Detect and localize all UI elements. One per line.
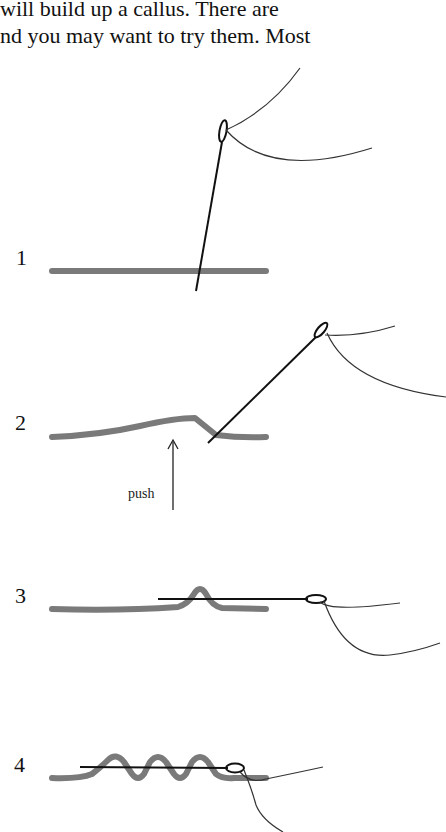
needle-icon <box>208 337 316 443</box>
sewing-diagram <box>0 0 446 832</box>
needle-eye-icon <box>226 764 244 773</box>
needle-icon <box>80 767 228 768</box>
fabric-icon <box>52 418 266 437</box>
step-3-illustration <box>52 589 440 655</box>
thread-icon <box>226 68 300 130</box>
needle-eye-icon <box>313 321 330 339</box>
thread-icon <box>327 333 446 397</box>
thread-icon <box>324 601 440 655</box>
needle-eye-icon <box>306 595 326 603</box>
thread-icon <box>320 602 400 607</box>
thread-icon <box>325 326 395 335</box>
step-2-illustration <box>52 321 446 510</box>
thread-icon <box>226 130 372 160</box>
step-1-illustration <box>52 68 372 291</box>
step-4-illustration <box>52 756 323 832</box>
